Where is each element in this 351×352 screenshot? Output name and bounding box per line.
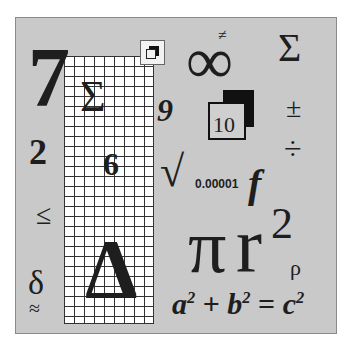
- eq-equals: =: [258, 287, 275, 320]
- function-f-symbol: f: [248, 164, 261, 204]
- eq-a: a: [172, 287, 187, 320]
- pythagorean-equation: a2 + b2 = c2: [172, 289, 304, 319]
- rho-symbol: ρ: [290, 257, 301, 279]
- digit-seven: 7: [28, 36, 70, 120]
- infinity-symbol: ∞: [186, 28, 233, 94]
- approx-symbol: ≈: [29, 298, 40, 318]
- squared-superscript: 2: [271, 202, 293, 246]
- r-symbol: r: [236, 206, 262, 284]
- eq-c: c: [283, 287, 296, 320]
- plus-minus-symbol: ±: [286, 94, 301, 122]
- sigma-right-symbol: Σ: [278, 28, 301, 68]
- math-symbols-panel: 7 2 ≤ δ ≈ Σ 6 Δ 9 ≠ ∞ Σ 10 ± ÷ √ 0.00001…: [15, 17, 337, 334]
- number-ten: 10: [213, 112, 235, 138]
- eq-plus: +: [203, 287, 220, 320]
- digit-nine: 9: [157, 94, 173, 126]
- eq-b-exponent: 2: [242, 288, 250, 307]
- digit-two: 2: [29, 134, 47, 170]
- sigma-grid-symbol: Σ: [80, 75, 106, 119]
- digit-six: 6: [103, 148, 119, 180]
- pi-symbol: π: [188, 208, 226, 284]
- ten-box: 10: [208, 102, 246, 140]
- eq-b: b: [227, 287, 242, 320]
- eq-a-exponent: 2: [187, 288, 195, 307]
- window-restore-icon[interactable]: [140, 40, 165, 65]
- square-root-symbol: √: [160, 150, 184, 194]
- delta-lower-symbol: δ: [28, 266, 44, 300]
- small-decimal-number: 0.00001: [195, 178, 238, 190]
- less-equal-symbol: ≤: [36, 201, 51, 229]
- restore-front-square: [146, 49, 156, 59]
- delta-upper-symbol: Δ: [85, 228, 138, 312]
- divide-symbol: ÷: [284, 132, 302, 164]
- eq-c-exponent: 2: [296, 288, 304, 307]
